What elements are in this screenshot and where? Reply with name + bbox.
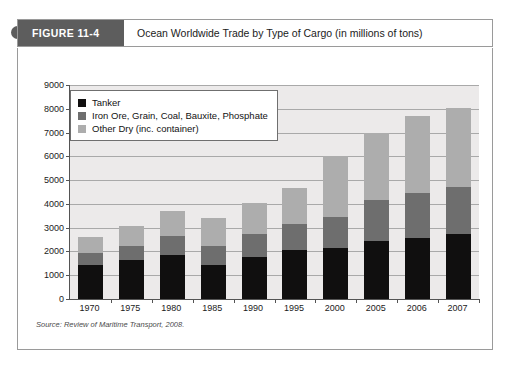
legend-swatch-icon <box>78 112 86 120</box>
bar-column[interactable] <box>160 211 185 299</box>
bar-segment[interactable] <box>323 217 348 248</box>
y-axis-tick-mark <box>66 180 70 181</box>
bar-column[interactable] <box>242 203 267 299</box>
y-axis-tick-mark <box>66 228 70 229</box>
y-axis-tick-label: 9000 <box>18 80 64 90</box>
bar-column[interactable] <box>78 237 103 299</box>
y-axis-tick-label: 5000 <box>18 175 64 185</box>
x-axis-tick-label: 2005 <box>366 303 386 313</box>
legend-item: Iron Ore, Grain, Coal, Bauxite, Phosphat… <box>78 109 268 122</box>
bar-segment[interactable] <box>201 265 226 299</box>
chart-plot-wrapper: 9000800070006000500040003000200010000 19… <box>18 48 494 350</box>
bar-segment[interactable] <box>242 234 267 257</box>
bar-segment[interactable] <box>201 246 226 265</box>
bar-segment[interactable] <box>119 260 144 299</box>
x-axis-tick-label: 2006 <box>407 303 427 313</box>
y-axis-tick-mark <box>66 85 70 86</box>
x-axis-tick-label: 1970 <box>79 303 99 313</box>
legend-item-label: Tanker <box>92 97 121 108</box>
x-axis-tick-label: 2007 <box>448 303 468 313</box>
legend-item-label: Iron Ore, Grain, Coal, Bauxite, Phosphat… <box>92 110 268 121</box>
figure-number-label: FIGURE 11-4 <box>18 20 124 46</box>
bar-segment[interactable] <box>405 193 430 238</box>
x-axis-tick-label: 2000 <box>325 303 345 313</box>
legend-item: Tanker <box>78 96 268 109</box>
legend-swatch-icon <box>78 99 86 107</box>
y-axis-tick-mark <box>66 299 70 300</box>
y-axis-tick-mark <box>66 275 70 276</box>
bar-segment[interactable] <box>405 116 430 193</box>
bar-segment[interactable] <box>242 257 267 299</box>
chart-legend: TankerIron Ore, Grain, Coal, Bauxite, Ph… <box>70 90 278 141</box>
x-axis-labels: 1970197519801985199019952000200520062007 <box>69 303 478 317</box>
legend-swatch-icon <box>78 125 86 133</box>
bar-segment[interactable] <box>364 241 389 299</box>
y-axis-tick-label: 0 <box>18 294 64 304</box>
bar-segment[interactable] <box>446 108 471 187</box>
y-axis-tick-label: 1000 <box>18 270 64 280</box>
y-axis-tick-mark <box>66 251 70 252</box>
bar-segment[interactable] <box>160 255 185 299</box>
bar-column[interactable] <box>405 116 430 299</box>
x-axis-tick-label: 1985 <box>202 303 222 313</box>
y-axis-tick-label: 2000 <box>18 246 64 256</box>
y-axis-tick-mark <box>66 204 70 205</box>
bar-segment[interactable] <box>364 200 389 242</box>
x-axis-tick-label: 1990 <box>243 303 263 313</box>
bar-column[interactable] <box>119 226 144 299</box>
bar-segment[interactable] <box>119 226 144 245</box>
legend-item: Other Dry (inc. container) <box>78 122 268 135</box>
bar-segment[interactable] <box>160 211 185 236</box>
bar-segment[interactable] <box>160 236 185 255</box>
bar-segment[interactable] <box>78 253 103 265</box>
bar-segment[interactable] <box>323 248 348 299</box>
x-axis-tick-mark <box>479 299 480 303</box>
y-axis-tick-label: 7000 <box>18 128 64 138</box>
bar-segment[interactable] <box>282 224 307 250</box>
y-axis-tick-label: 8000 <box>18 104 64 114</box>
legend-item-label: Other Dry (inc. container) <box>92 123 199 134</box>
bar-column[interactable] <box>364 133 389 299</box>
bar-segment[interactable] <box>242 203 267 234</box>
bar-segment[interactable] <box>405 238 430 299</box>
bar-segment[interactable] <box>78 237 103 252</box>
y-axis-tick-label: 4000 <box>18 199 64 209</box>
bar-column[interactable] <box>201 218 226 299</box>
y-axis-labels: 9000800070006000500040003000200010000 <box>18 85 64 299</box>
bar-segment[interactable] <box>201 218 226 245</box>
gridline <box>70 85 479 86</box>
y-axis-tick-label: 6000 <box>18 151 64 161</box>
source-note: Source: Review of Maritime Transport, 20… <box>36 320 184 329</box>
x-axis-tick-label: 1980 <box>161 303 181 313</box>
y-axis-tick-mark <box>66 156 70 157</box>
bar-segment[interactable] <box>323 156 348 217</box>
bar-segment[interactable] <box>364 133 389 200</box>
bar-segment[interactable] <box>119 246 144 260</box>
chart-card: 9000800070006000500040003000200010000 19… <box>17 48 493 350</box>
figure-root: FIGURE 11-4 Ocean Worldwide Trade by Typ… <box>0 0 510 369</box>
bar-segment[interactable] <box>78 265 103 299</box>
figure-caption: Ocean Worldwide Trade by Type of Cargo (… <box>124 20 492 46</box>
y-axis-tick-label: 3000 <box>18 223 64 233</box>
bar-segment[interactable] <box>446 187 471 234</box>
figure-header: FIGURE 11-4 Ocean Worldwide Trade by Typ… <box>17 19 493 47</box>
bar-segment[interactable] <box>282 250 307 299</box>
bar-column[interactable] <box>323 156 348 299</box>
bar-segment[interactable] <box>282 188 307 224</box>
bar-column[interactable] <box>282 188 307 299</box>
x-axis-tick-label: 1975 <box>120 303 140 313</box>
bar-segment[interactable] <box>446 234 471 299</box>
bar-column[interactable] <box>446 108 471 299</box>
x-axis-tick-label: 1995 <box>284 303 304 313</box>
